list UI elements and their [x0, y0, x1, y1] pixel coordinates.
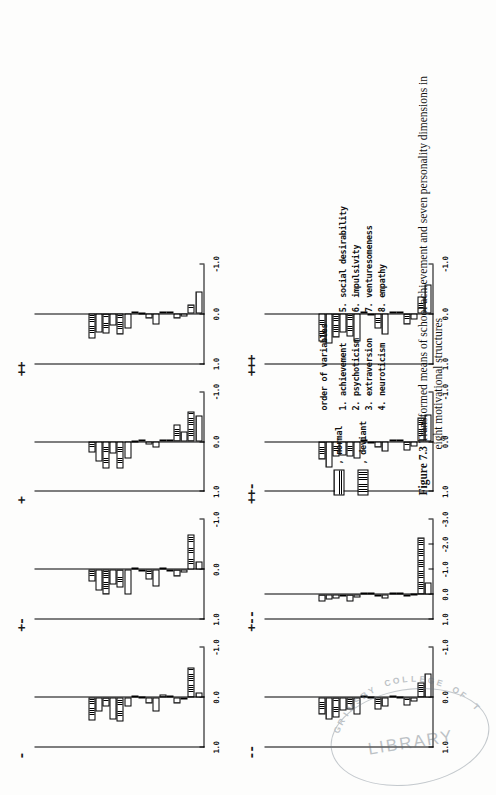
chart-bar [145, 313, 152, 318]
variable-key-column-right: 5. social desirability 6. impulsivity 7.… [337, 206, 386, 312]
chart-panel-title: +++ [246, 355, 256, 375]
chart-bar [318, 441, 325, 459]
chart-bar [173, 313, 180, 318]
chart-bar [145, 441, 152, 443]
chart-axis-tick-label: 1.0 [211, 741, 220, 753]
variable-key-item: 7. venturesomeness [363, 206, 373, 312]
chart-bar [389, 592, 396, 594]
chart-bar [102, 313, 109, 333]
chart-bar [109, 569, 116, 584]
chart-plot-area: 1.00.0-1.0 [34, 520, 204, 620]
chart-bar [124, 697, 131, 707]
chart-bar [131, 440, 138, 442]
chart-bar [131, 311, 138, 313]
chart-panel: +-1.00.0-1.0 [14, 516, 230, 638]
chart-panel-title: +- [16, 618, 26, 632]
chart-bar [138, 569, 145, 571]
chart-bar [389, 439, 396, 441]
chart-bar [116, 313, 123, 334]
figure-legend: , normal , deviant [330, 421, 378, 495]
stamp-arc-char: L [411, 674, 417, 684]
chart-bar [152, 313, 159, 324]
legend-label-deviant: , deviant [357, 421, 367, 464]
chart-bar [332, 594, 339, 599]
chart-panel-title: -- [246, 745, 256, 759]
chart-bar [88, 569, 95, 581]
chart-panel-title: ++ [16, 362, 26, 376]
variable-key: order of variables 1. achievement 2. psy… [318, 206, 386, 410]
chart-bar [396, 592, 403, 594]
chart-bar [195, 291, 202, 313]
chart-bar [116, 569, 123, 587]
chart-bar [88, 313, 95, 338]
stamp-arc-char: T [471, 702, 483, 713]
chart-bar [166, 439, 173, 441]
chart-panel-title: - [16, 752, 26, 759]
chart-bar [389, 311, 396, 313]
chart-axis-tick-label: 0.0 [211, 563, 220, 575]
legend-item-normal: , normal [330, 421, 346, 495]
chart-bar [360, 592, 367, 594]
chart-bar [403, 313, 410, 324]
chart-axis-tick-label: -2.0 [440, 536, 449, 552]
chart-bar [195, 415, 202, 441]
chart-axis-tick-label: -1.0 [211, 639, 220, 655]
chart-bar [95, 313, 102, 332]
variable-key-column-left: 1. achievement 2. psychoticism 3. extrav… [337, 338, 386, 410]
chart-baseline [432, 520, 433, 620]
chart-axis-tick-label: 0.0 [211, 691, 220, 703]
chart-panel: -1.00.0-1.0 [14, 643, 230, 765]
chart-bar [381, 441, 388, 451]
chart-bar [152, 441, 159, 447]
chart-bar [102, 441, 109, 468]
chart-axis-tick-label: 0.0 [211, 308, 220, 320]
chart-bar [145, 697, 152, 703]
chart-bar [138, 696, 145, 698]
chart-panel-title: + [16, 497, 26, 504]
chart-bar [396, 439, 403, 441]
chart-bar [403, 594, 410, 596]
chart-bar [403, 441, 410, 450]
chart-bar [95, 441, 102, 461]
chart-bar [195, 561, 202, 568]
variable-key-item: 5. social desirability [337, 206, 347, 312]
chart-bar [159, 694, 166, 696]
legend-label-normal: , normal [333, 425, 343, 464]
chart-plot-area: 1.00.0-1.0-2.0-3.0 [264, 520, 434, 620]
chart-bar [339, 594, 346, 596]
chart-axis-tick-label: 1.0 [211, 485, 220, 497]
chart-bar [424, 582, 431, 593]
chart-bar [325, 594, 332, 599]
chart-bar [124, 441, 131, 458]
chart-axis-tick-label: 1.0 [440, 613, 449, 625]
chart-bar [346, 594, 353, 601]
chart-bar [180, 697, 187, 699]
chart-bar [109, 697, 116, 719]
variable-key-item: 2. psychoticism [350, 338, 360, 410]
variable-key-item: 3. extraversion [363, 338, 373, 410]
stamp-arc-char: L [402, 674, 409, 685]
chart-bar [180, 569, 187, 572]
scanned-page: -1.00.0-1.0+-1.00.0-1.0+1.00.0-1.0++1.00… [0, 0, 496, 795]
chart-bar [353, 594, 360, 597]
variable-key-item: 4. neuroticism [376, 338, 386, 410]
chart-bar [131, 695, 138, 697]
chart-bar [95, 697, 102, 712]
chart-panel: +1.00.0-1.0 [14, 388, 230, 510]
chart-bar [124, 313, 131, 328]
chart-axis-tick-label: -1.0 [440, 639, 449, 655]
chart-axis-tick-label: -1.0 [211, 384, 220, 400]
chart-bar [367, 592, 374, 594]
chart-bar [166, 695, 173, 697]
chart-bar [109, 313, 116, 325]
stamp-arc-char: E [435, 677, 445, 689]
chart-bar [195, 692, 202, 697]
chart-axis-tick-label: 0.0 [211, 436, 220, 448]
chart-axis-tick-label: -3.0 [440, 511, 449, 527]
chart-bar [88, 697, 95, 721]
chart-axis-tick-label: 0.0 [440, 588, 449, 600]
chart-bar [187, 411, 194, 442]
chart-panel: ++1.00.0-1.0 [14, 260, 230, 382]
legend-item-deviant: , deviant [354, 421, 370, 495]
chart-bar [131, 567, 138, 569]
